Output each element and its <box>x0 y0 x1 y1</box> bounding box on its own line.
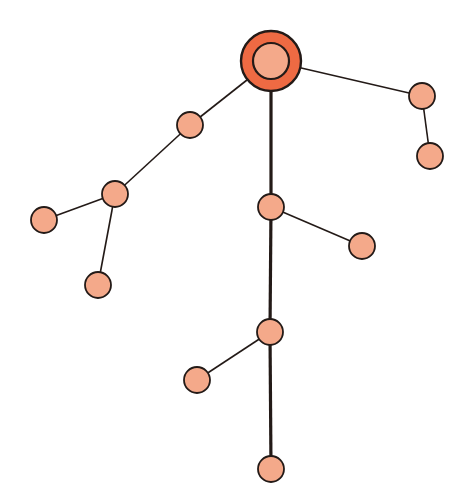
edge-n1-n2 <box>115 125 190 194</box>
root-node-inner <box>253 43 289 79</box>
node-n10 <box>184 367 210 393</box>
nodes-layer <box>31 31 443 482</box>
node-n9 <box>257 319 283 345</box>
node-n3 <box>31 207 57 233</box>
node-n7 <box>258 194 284 220</box>
edge-n7-n8 <box>271 207 362 246</box>
node-n2 <box>102 181 128 207</box>
node-n4 <box>85 272 111 298</box>
node-n6 <box>417 143 443 169</box>
edge-n7-n9 <box>270 207 271 332</box>
node-n8 <box>349 233 375 259</box>
node-n11 <box>258 456 284 482</box>
edge-n9-n11 <box>270 332 271 469</box>
node-n1 <box>177 112 203 138</box>
node-n5 <box>409 83 435 109</box>
edges-layer <box>44 61 430 469</box>
tree-diagram <box>0 0 462 502</box>
